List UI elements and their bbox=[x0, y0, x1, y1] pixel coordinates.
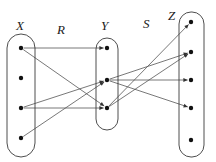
relation-label-s: S bbox=[143, 16, 150, 31]
element-dot-x2 bbox=[19, 76, 23, 80]
element-dot-y1 bbox=[105, 46, 109, 50]
element-dot-x1 bbox=[19, 46, 23, 50]
arrowhead-icon-S-y2-to-z3 bbox=[183, 78, 187, 82]
element-dot-z1 bbox=[189, 20, 193, 24]
edge-S-y2-to-z2 bbox=[110, 53, 188, 79]
arrowhead-icon-S-y2-to-z4 bbox=[183, 104, 188, 108]
element-dot-x3 bbox=[19, 106, 23, 110]
element-dot-y3 bbox=[105, 106, 109, 110]
arrowhead-icon-R-x1-to-y1 bbox=[99, 46, 103, 50]
element-dot-z2 bbox=[189, 50, 193, 54]
element-dot-x4 bbox=[19, 136, 23, 140]
labels-layer: XYZRS bbox=[15, 8, 176, 37]
edge-R-x3-to-y2 bbox=[24, 81, 104, 107]
element-dot-y2 bbox=[105, 78, 109, 82]
arrowhead-icon-R-x1-to-y3 bbox=[100, 102, 105, 106]
relation-diagram: XYZRS bbox=[0, 0, 216, 162]
set-label-y: Y bbox=[101, 18, 110, 33]
set-label-x: X bbox=[15, 18, 25, 33]
set-outline-z bbox=[179, 12, 204, 157]
element-dot-z4 bbox=[189, 106, 193, 110]
set-outline-y bbox=[96, 38, 118, 130]
element-dot-z3 bbox=[189, 78, 193, 82]
element-dot-z5 bbox=[189, 138, 193, 142]
set-outlines-layer bbox=[7, 12, 204, 157]
relation-label-r: R bbox=[56, 22, 65, 37]
diagram-canvas: XYZRS bbox=[0, 0, 216, 162]
arrowhead-icon-R-x3-to-y3 bbox=[99, 106, 103, 110]
set-label-z: Z bbox=[168, 8, 176, 23]
